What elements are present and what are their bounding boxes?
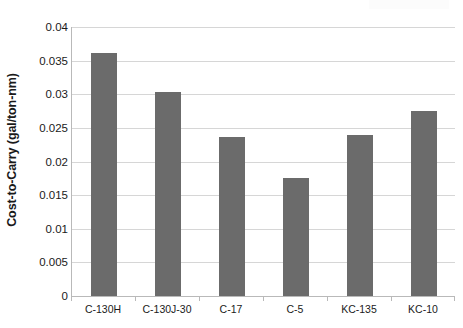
y-axis-tick-label: 0.01 [6,223,68,235]
gridline [72,195,455,196]
plot-area [71,27,455,296]
gridline [72,61,455,62]
x-axis-category-label: C-5 [287,303,304,315]
gridline [72,94,455,95]
y-axis-tick-label: 0.035 [6,55,68,67]
gridline [72,229,455,230]
x-axis-category-label: KC-135 [341,303,377,315]
bar [283,178,309,296]
bar [411,111,437,296]
y-axis-tick-label: 0.015 [6,189,68,201]
gridline [72,27,455,28]
x-axis-tick [391,296,392,301]
cropped-artifact [369,0,449,9]
x-axis-category-label: C-130H [85,303,121,315]
y-axis-tick-label: 0 [6,290,68,302]
y-axis-tick-labels: 00.0050.010.0150.020.0250.030.0350.04 [0,27,68,296]
y-axis-tick-label: 0.005 [6,256,68,268]
x-axis-tick [71,296,72,301]
x-axis-tick [135,296,136,301]
x-axis-category-label: KC-10 [408,303,438,315]
x-axis-tick [199,296,200,301]
y-axis-tick-label: 0.03 [6,88,68,100]
bar-chart: Cost-to-Carry (gal/ton-nm) 00.0050.010.0… [0,0,463,328]
x-axis-tick [263,296,264,301]
x-axis-tick [454,296,455,301]
y-axis-tick-label: 0.025 [6,122,68,134]
x-axis-category-label: C-17 [220,303,243,315]
gridline [72,162,455,163]
bar [219,137,245,296]
y-axis-tick-label: 0.02 [6,156,68,168]
x-axis-category-label: C-130J-30 [142,303,191,315]
x-axis: C-130HC-130J-30C-17C-5KC-135KC-10 [71,296,455,328]
gridline [72,262,455,263]
bar [347,135,373,296]
bar [155,92,181,296]
y-axis-tick-label: 0.04 [6,21,68,33]
gridline [72,128,455,129]
bar [91,53,117,296]
x-axis-tick [327,296,328,301]
